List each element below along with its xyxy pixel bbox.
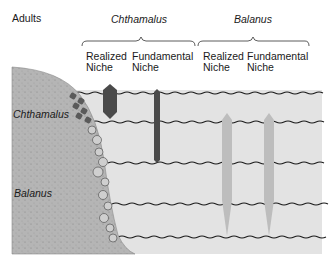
chthamalus-fundamental-label: Fundamental Niche bbox=[132, 51, 193, 73]
title-adults: Adults bbox=[12, 13, 41, 24]
balanus-fundamental-label: Fundamental Niche bbox=[247, 51, 308, 73]
chthamalus-fundamental-niche-bar bbox=[154, 89, 160, 163]
chthamalus-realized-label: Realized Niche bbox=[86, 51, 127, 73]
balanus-brace bbox=[198, 37, 309, 46]
chthamalus-brace bbox=[82, 37, 195, 46]
chthamalus-realized-niche-bar bbox=[103, 84, 117, 119]
rock-label-balanus: Balanus bbox=[14, 188, 52, 199]
species-label-chthamalus: Chthamalus bbox=[111, 14, 167, 25]
niche-diagram bbox=[0, 0, 330, 259]
balanus-realized-label: Realized Niche bbox=[203, 51, 244, 73]
rock-label-chthamalus: Chthamalus bbox=[13, 109, 69, 120]
species-label-balanus: Balanus bbox=[234, 14, 272, 25]
